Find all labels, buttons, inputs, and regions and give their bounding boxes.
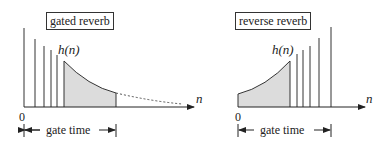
gated-dashed-tail	[116, 93, 182, 104]
reverse-shaded-region	[238, 61, 290, 107]
gated-reverb-panel: n 0 h(n) gate time	[19, 28, 203, 137]
reverse-axis-label: n	[366, 91, 373, 106]
reverb-diagram: n 0 h(n) gate time n 0 h(n)	[0, 0, 390, 145]
reverse-origin-label: 0	[235, 110, 241, 124]
reverse-reverb-panel: n 0 h(n) gate time	[235, 27, 373, 137]
gated-early-reflections	[24, 28, 57, 107]
reverse-gate-time-label: gate time	[260, 123, 304, 137]
reverse-late-reflections	[297, 27, 331, 107]
gated-curve-label: h(n)	[58, 42, 80, 57]
gated-origin-label: 0	[19, 110, 25, 124]
gated-gate-time-label: gate time	[46, 123, 90, 137]
reverse-curve-label: h(n)	[272, 42, 294, 57]
gated-axis-label: n	[196, 91, 203, 106]
